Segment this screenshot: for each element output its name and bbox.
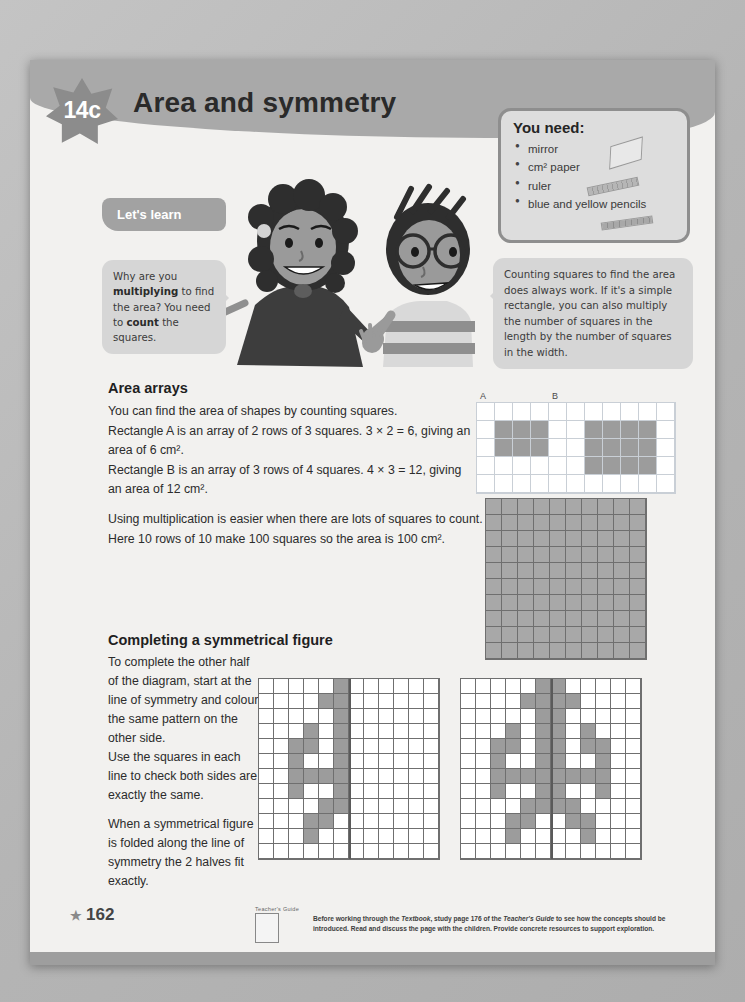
grid-cell[interactable]	[521, 814, 536, 829]
grid-cell[interactable]	[289, 754, 304, 769]
grid-cell[interactable]	[551, 799, 566, 814]
grid-cell[interactable]	[611, 694, 626, 709]
grid-cell[interactable]	[596, 769, 611, 784]
grid-cell[interactable]	[364, 709, 379, 724]
grid-cell[interactable]	[334, 799, 349, 814]
grid-cell[interactable]	[379, 724, 394, 739]
grid-cell[interactable]	[581, 679, 596, 694]
grid-cell[interactable]	[274, 784, 289, 799]
grid-cell[interactable]	[566, 844, 581, 859]
grid-cell[interactable]	[596, 694, 611, 709]
grid-cell[interactable]	[581, 844, 596, 859]
grid-cell[interactable]	[626, 724, 641, 739]
grid-cell[interactable]	[289, 844, 304, 859]
grid-cell[interactable]	[319, 769, 334, 784]
grid-cell[interactable]	[319, 799, 334, 814]
grid-cell[interactable]	[521, 754, 536, 769]
grid-cell[interactable]	[476, 709, 491, 724]
grid-cell[interactable]	[461, 679, 476, 694]
grid-cell[interactable]	[274, 679, 289, 694]
grid-cell[interactable]	[581, 829, 596, 844]
grid-cell[interactable]	[289, 814, 304, 829]
grid-cell[interactable]	[581, 814, 596, 829]
grid-cell[interactable]	[259, 694, 274, 709]
grid-cell[interactable]	[424, 799, 439, 814]
grid-cell[interactable]	[461, 694, 476, 709]
grid-cell[interactable]	[611, 754, 626, 769]
grid-cell[interactable]	[611, 724, 626, 739]
grid-cell[interactable]	[424, 784, 439, 799]
grid-cell[interactable]	[476, 799, 491, 814]
grid-cell[interactable]	[551, 814, 566, 829]
grid-cell[interactable]	[334, 724, 349, 739]
grid-cell[interactable]	[409, 799, 424, 814]
grid-cell[interactable]	[334, 754, 349, 769]
grid-cell[interactable]	[491, 829, 506, 844]
grid-cell[interactable]	[491, 799, 506, 814]
grid-cell[interactable]	[349, 679, 364, 694]
grid-cell[interactable]	[506, 739, 521, 754]
symmetry-grid-left[interactable]	[258, 678, 440, 860]
grid-cell[interactable]	[566, 679, 581, 694]
grid-cell[interactable]	[566, 709, 581, 724]
grid-cell[interactable]	[379, 754, 394, 769]
grid-cell[interactable]	[424, 739, 439, 754]
grid-cell[interactable]	[304, 784, 319, 799]
grid-cell[interactable]	[506, 799, 521, 814]
grid-cell[interactable]	[536, 814, 551, 829]
grid-cell[interactable]	[304, 769, 319, 784]
grid-cell[interactable]	[394, 784, 409, 799]
grid-cell[interactable]	[596, 724, 611, 739]
grid-cell[interactable]	[476, 754, 491, 769]
grid-cell[interactable]	[274, 724, 289, 739]
grid-cell[interactable]	[506, 814, 521, 829]
grid-cell[interactable]	[364, 724, 379, 739]
grid-cell[interactable]	[304, 739, 319, 754]
grid-cell[interactable]	[506, 784, 521, 799]
grid-cell[interactable]	[394, 724, 409, 739]
grid-cell[interactable]	[581, 694, 596, 709]
grid-cell[interactable]	[536, 679, 551, 694]
grid-cell[interactable]	[551, 769, 566, 784]
grid-cell[interactable]	[626, 829, 641, 844]
grid-cell[interactable]	[536, 784, 551, 799]
grid-cell[interactable]	[424, 724, 439, 739]
grid-cell[interactable]	[394, 679, 409, 694]
grid-cell[interactable]	[506, 724, 521, 739]
grid-cell[interactable]	[566, 754, 581, 769]
grid-cell[interactable]	[611, 844, 626, 859]
grid-cell[interactable]	[536, 829, 551, 844]
grid-cell[interactable]	[364, 829, 379, 844]
grid-cell[interactable]	[476, 769, 491, 784]
grid-cell[interactable]	[611, 709, 626, 724]
grid-cell[interactable]	[319, 784, 334, 799]
grid-cell[interactable]	[289, 739, 304, 754]
grid-cell[interactable]	[349, 829, 364, 844]
grid-cell[interactable]	[596, 754, 611, 769]
grid-cell[interactable]	[349, 754, 364, 769]
grid-cell[interactable]	[424, 814, 439, 829]
grid-cell[interactable]	[461, 784, 476, 799]
grid-cell[interactable]	[274, 709, 289, 724]
grid-cell[interactable]	[334, 814, 349, 829]
grid-cell[interactable]	[461, 754, 476, 769]
grid-cell[interactable]	[506, 754, 521, 769]
grid-cell[interactable]	[461, 829, 476, 844]
grid-cell[interactable]	[274, 844, 289, 859]
grid-cell[interactable]	[476, 679, 491, 694]
grid-cell[interactable]	[566, 724, 581, 739]
grid-cell[interactable]	[626, 709, 641, 724]
grid-cell[interactable]	[536, 724, 551, 739]
grid-cell[interactable]	[289, 724, 304, 739]
grid-cell[interactable]	[274, 799, 289, 814]
grid-cell[interactable]	[551, 754, 566, 769]
grid-cell[interactable]	[334, 709, 349, 724]
grid-cell[interactable]	[506, 769, 521, 784]
grid-cell[interactable]	[506, 679, 521, 694]
grid-cell[interactable]	[259, 754, 274, 769]
grid-cell[interactable]	[551, 829, 566, 844]
grid-cell[interactable]	[349, 799, 364, 814]
grid-cell[interactable]	[304, 724, 319, 739]
grid-cell[interactable]	[304, 844, 319, 859]
grid-cell[interactable]	[409, 739, 424, 754]
